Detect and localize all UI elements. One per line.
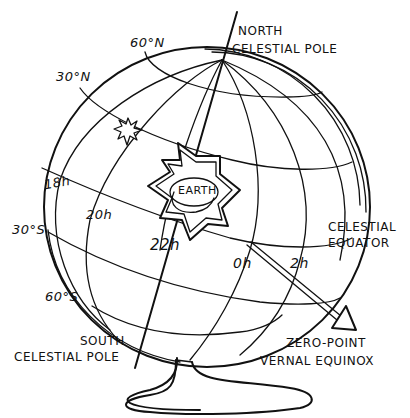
dec-60s-label: 60°S xyxy=(45,290,78,304)
celestial-equator-label-line2: EQUATOR xyxy=(328,236,390,250)
celestial-equator-label-line1: CELESTIAL xyxy=(328,220,396,234)
ra-0h-label: 0h xyxy=(233,256,252,270)
ra-2h-label: 2h xyxy=(290,256,309,270)
earth-label: EARTH xyxy=(178,184,217,198)
south-pole-label-line1: SOUTH xyxy=(80,334,125,348)
dec-30n-label: 30°N xyxy=(56,70,91,84)
zero-point-label-line2: VERNAL EQUINOX xyxy=(260,354,374,368)
zero-point-label-line1: ZERO-POINT xyxy=(286,336,366,350)
ra-22h-label: 22h xyxy=(150,238,180,252)
star-icon xyxy=(114,118,142,145)
north-pole-label-line1: NORTH xyxy=(238,24,283,38)
dec-60n-label: 60°N xyxy=(130,36,165,50)
dec-30s-label: 30°S xyxy=(12,223,45,237)
south-pole-label-line2: CELESTIAL POLE xyxy=(14,350,119,364)
ra-20h-label: 20h xyxy=(86,208,112,222)
north-pole-label-line2: CELESTIAL POLE xyxy=(232,42,337,56)
